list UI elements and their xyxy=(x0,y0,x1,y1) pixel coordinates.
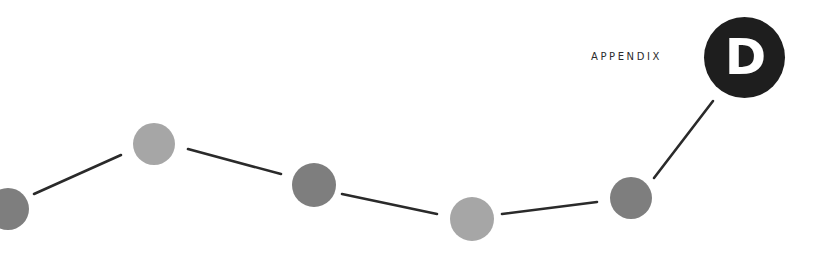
connector-line xyxy=(188,149,281,174)
connector-line xyxy=(654,101,713,178)
dot-marker xyxy=(610,177,652,219)
appendix-letter-badge: D xyxy=(704,17,785,98)
dot-marker xyxy=(0,188,29,230)
connector-line xyxy=(342,194,437,214)
dot-marker xyxy=(292,163,336,207)
connector-line xyxy=(34,155,121,194)
dot-markers xyxy=(0,123,652,241)
connector-line xyxy=(502,202,597,214)
dot-marker xyxy=(133,123,175,165)
badge-letter: D xyxy=(725,32,767,82)
appendix-label: APPENDIX xyxy=(591,50,662,64)
dot-marker xyxy=(450,197,494,241)
